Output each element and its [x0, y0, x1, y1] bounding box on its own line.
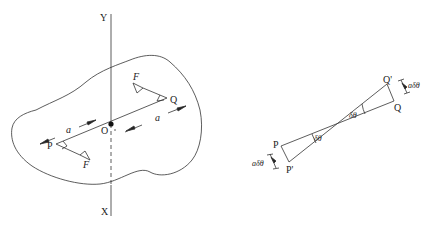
- origin-label: O: [101, 125, 108, 136]
- segment-p-pprime: [281, 146, 289, 162]
- rigid-body-figure: [12, 14, 202, 216]
- point-p-label-right: P: [273, 139, 279, 150]
- point-qprime-label: Q': [383, 74, 392, 85]
- point-p-label: P: [47, 140, 53, 151]
- angle-label-right: δθ: [349, 111, 357, 120]
- axis-top-label: Y: [100, 12, 107, 23]
- point-q-label-right: Q: [394, 102, 402, 113]
- right-angle-p: [62, 141, 67, 149]
- axis-bottom-label: X: [101, 206, 109, 217]
- point-pprime-label: P': [286, 164, 294, 175]
- diagram-canvas: Y X O P Q F F a a P P' Q Q' δθ δ: [0, 0, 430, 226]
- arc-marker-left: [267, 154, 279, 169]
- point-q-label: Q: [170, 94, 178, 105]
- force-label-top: F: [132, 71, 140, 82]
- distance-label-left: a: [66, 124, 71, 135]
- force-q-arrowhead: [133, 83, 143, 93]
- origin-point: [108, 121, 113, 126]
- dimension-arrow-right-inner: [125, 125, 142, 132]
- force-label-bottom: F: [82, 159, 90, 170]
- force-q-line: [143, 88, 167, 98]
- arc-label-left: aδθ: [252, 159, 264, 168]
- angle-label-left: δθ: [314, 134, 322, 143]
- body-outline: [12, 55, 202, 184]
- force-p-line: [56, 144, 80, 155]
- distance-label-right: a: [155, 112, 160, 123]
- dimension-arrow-left-inner: [79, 120, 96, 127]
- pq-line: [56, 98, 167, 144]
- dimension-arrow-right-outer: [168, 106, 186, 113]
- angle-arc-right: [362, 104, 365, 114]
- segment-q-qprime: [387, 84, 394, 101]
- rotation-figure: [267, 79, 410, 169]
- line-pprime-qprime: [289, 84, 387, 162]
- arc-label-right: aδθ: [408, 81, 420, 90]
